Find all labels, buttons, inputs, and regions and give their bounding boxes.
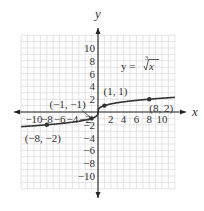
- y-axis-down-arrow-icon: [96, 192, 101, 198]
- point-label: (1, 1): [103, 85, 127, 98]
- y-tick-label: −6: [83, 144, 95, 156]
- data-point-marker: [102, 103, 106, 107]
- y-tick-label: −8: [83, 157, 95, 169]
- x-axis-left-arrow-icon: [14, 110, 20, 115]
- x-tick-label: 4: [121, 113, 127, 125]
- x-tick-label: 8: [146, 113, 152, 125]
- cube-root-graph: x y −10−8−6−4−2246810108642−2−4−6−8−10 (…: [0, 0, 204, 211]
- y-tick-label: 8: [90, 55, 96, 67]
- point-label: (−1, −1): [49, 98, 86, 111]
- y-tick-label: 6: [90, 68, 96, 80]
- function-label: y = 3 x: [121, 55, 159, 72]
- y-tick-label: −4: [83, 132, 95, 144]
- x-tick-label: 10: [157, 113, 169, 125]
- point-label: (8, 2): [149, 102, 173, 115]
- data-point-marker: [147, 97, 151, 101]
- function-label-lhs: y =: [121, 60, 135, 72]
- x-tick-label: 6: [134, 113, 140, 125]
- radical-index: 3: [145, 55, 148, 61]
- y-axis-label: y: [93, 6, 101, 21]
- x-tick-label: 2: [108, 113, 114, 125]
- x-axis-right-arrow-icon: [180, 110, 186, 115]
- y-axis-up-arrow-icon: [96, 28, 101, 34]
- y-tick-label: 4: [90, 80, 96, 92]
- y-tick-label: 10: [84, 42, 96, 54]
- radicand: x: [148, 60, 154, 72]
- y-tick-label: −10: [78, 170, 96, 182]
- point-label: (−8, −2): [25, 132, 62, 145]
- data-point-marker: [45, 123, 49, 127]
- y-tick-label: 2: [90, 93, 96, 105]
- x-axis-label: x: [191, 104, 198, 119]
